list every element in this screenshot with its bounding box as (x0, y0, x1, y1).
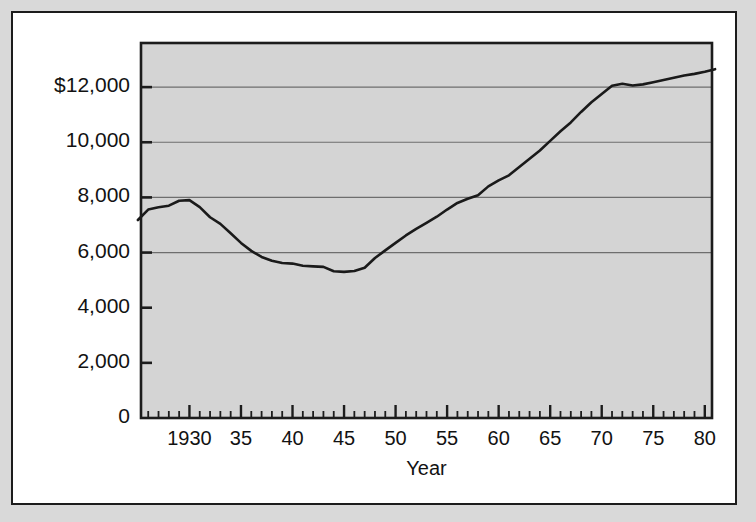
x-axis-title: Year (367, 457, 487, 480)
y-axis-tick-label: 0 (118, 404, 130, 428)
y-axis-tick-label: $12,000 (54, 73, 130, 97)
y-axis-tick-label: 8,000 (77, 183, 130, 207)
y-axis-tick-label: 10,000 (66, 128, 130, 152)
x-axis-tick-label: 80 (665, 427, 745, 450)
y-axis-tick-label: 2,000 (77, 349, 130, 373)
chart-stage: $12,00010,0008,0006,0004,0002,0000 19303… (0, 0, 756, 522)
y-axis-tick-label: 4,000 (77, 294, 130, 318)
y-axis-tick-label: 6,000 (77, 239, 130, 263)
